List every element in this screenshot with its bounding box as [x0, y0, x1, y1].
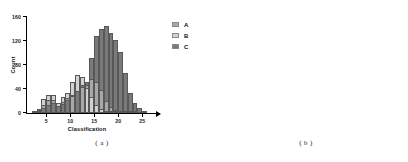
- legend-label: B: [184, 33, 188, 39]
- caption-a: ( a ): [0, 139, 204, 147]
- legend-item[interactable]: A: [172, 19, 188, 30]
- x-tick-label: 5: [45, 118, 48, 124]
- legend-swatch-icon: [172, 33, 179, 38]
- x-tick-mark: [70, 113, 71, 117]
- y-tick-label: 160: [12, 14, 21, 20]
- x-axis-title-a: Classification: [68, 126, 106, 132]
- caption-b: ( b ): [204, 139, 408, 147]
- x-tick-label: 25: [139, 118, 145, 124]
- legend-swatch-icon: [172, 22, 179, 27]
- legend-item[interactable]: C: [172, 41, 188, 52]
- panel-a: 04080120160 510152025 Classification Cou…: [0, 0, 204, 162]
- x-tick-label: 10: [67, 118, 73, 124]
- x-tick-mark: [94, 113, 95, 117]
- legend-label: C: [184, 44, 188, 50]
- x-tick-mark: [142, 113, 143, 117]
- x-tick-mark: [46, 113, 47, 117]
- y-tick-label: 0: [18, 110, 21, 116]
- y-axis-title-a: Count: [10, 57, 16, 74]
- y-tick-mark: [23, 64, 27, 65]
- y-tick-mark: [23, 88, 27, 89]
- legend-swatch-icon: [172, 44, 179, 49]
- x-tick-label: 20: [115, 118, 121, 124]
- x-tick-mark: [118, 113, 119, 117]
- bars-a: [27, 17, 147, 113]
- y-tick-label: 120: [12, 38, 21, 44]
- y-tick-mark: [23, 112, 27, 113]
- y-axis-a: [26, 17, 27, 113]
- x-axis-arrow-a: [156, 111, 161, 117]
- y-tick-mark: [23, 40, 27, 41]
- legend-label: A: [184, 22, 188, 28]
- legend-item[interactable]: B: [172, 30, 188, 41]
- x-tick-label: 15: [91, 118, 97, 124]
- figure-container: 04080120160 510152025 Classification Cou…: [0, 0, 408, 162]
- panel-b: 04080120160 510152025 Classification Cou…: [204, 0, 408, 162]
- y-tick-mark: [23, 16, 27, 17]
- y-tick-label: 40: [15, 86, 21, 92]
- legend-a: ABC: [172, 19, 188, 52]
- plot-area-a: 04080120160 510152025 Classification Cou…: [27, 17, 147, 113]
